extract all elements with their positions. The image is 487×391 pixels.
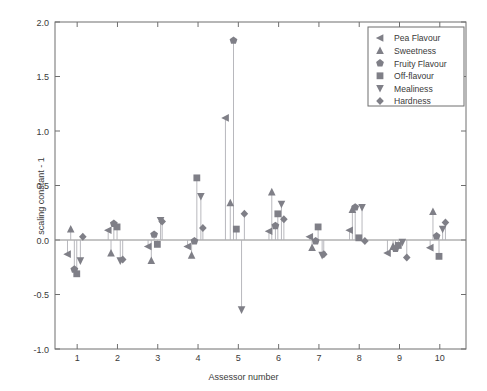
data-point-square	[114, 224, 121, 231]
data-point-diamond	[403, 253, 411, 261]
data-point-diamond	[442, 219, 450, 227]
y-tick-label-6: -1.0	[33, 345, 49, 355]
legend-label-2: Fruity Flavour	[394, 59, 447, 69]
data-point-square	[436, 253, 443, 260]
x-tick-label-2: 3	[155, 353, 160, 363]
data-point-triangle-down	[278, 201, 286, 209]
y-tick-label-5: -0.5	[33, 290, 49, 300]
x-tick-label-5: 6	[276, 353, 281, 363]
legend-label-4: Mealiness	[394, 84, 433, 94]
data-point-triangle-down	[197, 193, 205, 201]
data-point-diamond	[241, 210, 249, 218]
data-point-triangle-up	[148, 257, 156, 265]
data-point-triangle-up	[67, 225, 75, 233]
data-point-pentagon	[433, 232, 441, 239]
data-point-square	[233, 226, 240, 233]
data-point-triangle-up	[107, 249, 115, 257]
x-tick-label-3: 4	[196, 353, 201, 363]
y-tick-label-4: 0.0	[36, 236, 49, 246]
y-tick-label-0: 2.0	[36, 18, 49, 28]
data-point-triangle-down	[238, 306, 246, 314]
data-point-square	[193, 174, 200, 181]
figure-scaling-constant-scatter: scaling constant - 1 Assessor number 2.0…	[0, 0, 487, 391]
x-tick-label-1: 2	[115, 353, 120, 363]
data-point-triangle-down	[358, 204, 366, 212]
x-tick-label-0: 1	[75, 353, 80, 363]
y-tick-label-2: 1.0	[36, 127, 49, 137]
data-point-triangle-up	[308, 243, 316, 251]
data-point-square	[274, 210, 281, 217]
x-tick-label-8: 9	[397, 353, 402, 363]
legend-label-0: Pea Flavour	[394, 33, 440, 43]
data-point-square	[355, 234, 362, 241]
data-point-pentagon	[150, 230, 158, 237]
legend-label-3: Off-flavour	[394, 71, 434, 81]
x-tick-label-6: 7	[316, 353, 321, 363]
plot-canvas: 2.01.51.00.50.0-0.5-1.012345678910Pea Fl…	[0, 0, 487, 391]
legend-label-5: Hardness	[394, 96, 431, 106]
data-point-triangle-up	[268, 188, 276, 196]
data-point-square	[73, 270, 80, 277]
x-tick-label-9: 10	[435, 353, 445, 363]
y-tick-label-1: 1.5	[36, 72, 49, 82]
data-point-triangle-up	[226, 199, 234, 207]
data-point-pentagon	[351, 203, 359, 210]
data-point-triangle-up	[188, 251, 196, 259]
y-tick-label-3: 0.5	[36, 181, 49, 191]
data-point-pentagon	[230, 36, 238, 43]
data-point-square	[315, 224, 322, 231]
data-point-diamond	[199, 224, 207, 232]
data-point-triangle-up	[429, 207, 437, 215]
x-tick-label-4: 5	[236, 353, 241, 363]
legend-marker-square-icon	[377, 72, 384, 79]
legend-label-1: Sweetness	[394, 46, 436, 56]
data-point-square	[154, 241, 161, 248]
x-tick-label-7: 8	[357, 353, 362, 363]
data-point-triangle-down	[77, 257, 85, 265]
